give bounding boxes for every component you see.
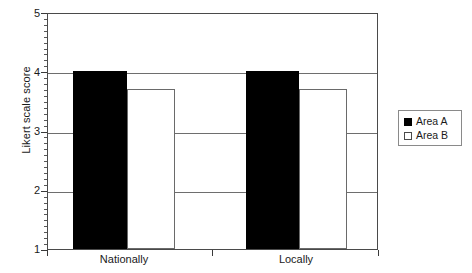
x-tick [212,250,213,256]
legend-label-area-a: Area A [416,116,448,127]
legend: Area A Area B [398,110,462,146]
plot-area [47,13,378,250]
x-tick-label-locally: Locally [236,253,356,265]
bar-chart: Likert scale score 5 4 3 2 1 [0,0,472,273]
y-tick-label: 5 [0,8,40,19]
y-tick-label: 3 [0,126,40,137]
legend-item-area-a: Area A [404,115,461,128]
bar-area-b-locally [299,89,347,249]
bar-area-a-nationally [73,71,127,249]
y-tick-label: 2 [0,185,40,196]
x-tick [378,250,379,256]
y-tick-label: 4 [0,67,40,78]
bar-area-a-locally [246,71,299,249]
bar-area-b-nationally [127,89,175,249]
x-tick [47,250,48,256]
legend-swatch-filled-square-icon [404,118,412,126]
legend-swatch-open-square-icon [404,132,412,140]
legend-label-area-b: Area B [416,130,448,141]
legend-item-area-b: Area B [404,129,461,142]
y-tick-label: 1 [0,244,40,255]
x-tick-label-nationally: Nationally [64,253,184,265]
